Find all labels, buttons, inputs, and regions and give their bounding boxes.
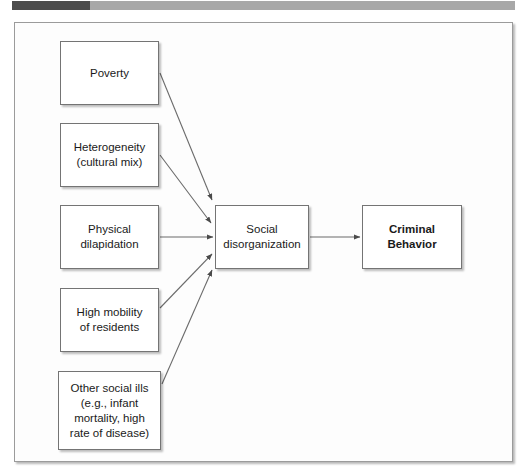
node-criminal-behavior: Criminal Behavior [362,205,462,269]
node-high-mobility: High mobility of residents [60,288,159,352]
node-heterogeneity: Heterogeneity (cultural mix) [60,123,159,187]
node-physical-dilapidation: Physical dilapidation [60,205,159,269]
progress-bar-fill [12,1,90,10]
node-social-disorganization: Social disorganization [215,205,309,269]
node-other-social-ills: Other social ills (e.g., infant mortalit… [58,371,161,450]
progress-bar-track [12,1,515,10]
node-poverty: Poverty [60,41,159,105]
